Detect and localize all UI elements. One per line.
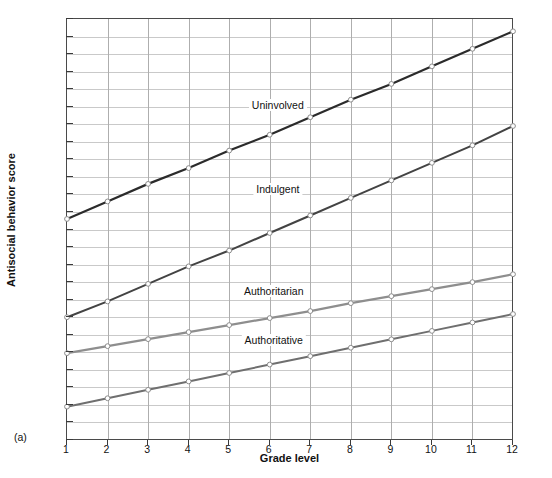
y-tick-mark [66,246,73,247]
data-point-marker [511,312,516,317]
data-point-marker [470,320,475,325]
series-label-uninvolved: Uninvolved [249,99,307,111]
data-point-marker [105,299,110,304]
data-point-marker [348,196,353,201]
data-point-marker [146,387,151,392]
data-point-marker [511,29,516,34]
plot-area: UninvolvedIndulgentAuthoritarianAuthorit… [66,18,513,440]
series-label-authoritarian: Authoritarian [241,285,307,297]
y-tick-mark [66,351,73,352]
y-tick-mark [66,386,73,387]
x-tick-mark [431,440,432,445]
x-tick-mark [390,440,391,445]
y-tick-mark [66,36,73,37]
y-tick-mark [66,88,73,89]
data-point-marker [267,316,272,321]
y-axis-title-text: Antisocial behavior score [5,153,17,287]
data-point-marker [267,132,272,137]
data-point-marker [146,337,151,342]
data-point-marker [348,97,353,102]
data-point-marker [267,362,272,367]
data-point-marker [430,64,435,69]
x-tick-mark [147,440,148,445]
data-point-marker [186,264,191,269]
y-tick-mark [66,404,73,405]
data-point-marker [389,337,394,342]
panel-tag: (a) [14,431,27,443]
series-label-authoritative: Authoritative [242,334,306,346]
y-tick-mark [66,71,73,72]
data-point-marker [146,181,151,186]
data-point-marker [308,213,313,218]
data-point-marker [65,217,70,222]
data-point-marker [348,301,353,306]
data-point-marker [105,396,110,401]
y-axis-title: Antisocial behavior score [2,0,20,440]
data-point-marker [186,379,191,384]
data-point-marker [105,344,110,349]
y-tick-mark [66,53,73,54]
x-tick-mark [188,440,189,445]
y-tick-mark [66,281,73,282]
y-tick-mark [66,334,73,335]
y-tick-mark [66,18,73,19]
y-tick-mark [66,229,73,230]
x-tick-mark [512,440,513,445]
y-tick-mark [66,316,73,317]
data-point-marker [511,272,516,277]
figure-container: Antisocial behavior score UninvolvedIndu… [0,0,552,478]
data-point-marker [389,294,394,299]
data-point-marker [430,328,435,333]
data-point-marker [227,248,232,253]
data-point-marker [105,199,110,204]
x-tick-mark [269,440,270,445]
series-layer [67,19,514,441]
series-label-indulgent: Indulgent [253,183,302,195]
data-point-marker [308,309,313,314]
series-line-authoritative [67,314,513,407]
data-point-marker [65,404,70,409]
y-tick-mark [66,193,73,194]
x-tick-mark [228,440,229,445]
data-point-marker [348,345,353,350]
data-point-marker [227,323,232,328]
data-point-marker [389,82,394,87]
data-point-marker [470,280,475,285]
data-point-marker [430,287,435,292]
data-point-marker [511,124,516,129]
y-tick-mark [66,369,73,370]
data-point-marker [308,115,313,120]
data-point-marker [227,371,232,376]
x-axis-title: Grade level [66,452,513,464]
x-tick-mark [107,440,108,445]
x-tick-mark [66,440,67,445]
y-tick-mark [66,299,73,300]
data-point-marker [470,143,475,148]
data-point-marker [430,160,435,165]
data-point-marker [186,330,191,335]
y-tick-mark [66,106,73,107]
x-tick-mark [350,440,351,445]
y-tick-mark [66,211,73,212]
y-tick-mark [66,158,73,159]
data-point-marker [308,354,313,359]
y-tick-mark [66,141,73,142]
data-point-marker [470,46,475,51]
y-tick-mark [66,264,73,265]
y-tick-mark [66,176,73,177]
x-tick-mark [471,440,472,445]
data-point-marker [186,166,191,171]
data-point-marker [267,231,272,236]
y-tick-mark [66,439,73,440]
data-point-marker [146,281,151,286]
data-point-marker [389,178,394,183]
x-tick-mark [309,440,310,445]
y-tick-mark [66,123,73,124]
y-tick-mark [66,421,73,422]
data-point-marker [227,148,232,153]
